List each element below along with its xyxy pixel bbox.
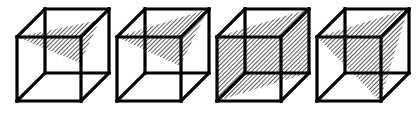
cube-3	[217, 9, 309, 101]
cube-edge	[181, 73, 209, 101]
cube-2	[117, 9, 209, 101]
figure-canvas	[0, 0, 420, 116]
cube-1	[17, 9, 109, 101]
cube-edge	[317, 73, 345, 101]
cube-edge	[117, 73, 145, 101]
cube-edge	[81, 73, 109, 101]
cube-edge	[17, 73, 45, 101]
cube-edge	[81, 9, 109, 37]
cube-cross-section-figure	[0, 0, 420, 116]
cube-4	[317, 9, 409, 101]
